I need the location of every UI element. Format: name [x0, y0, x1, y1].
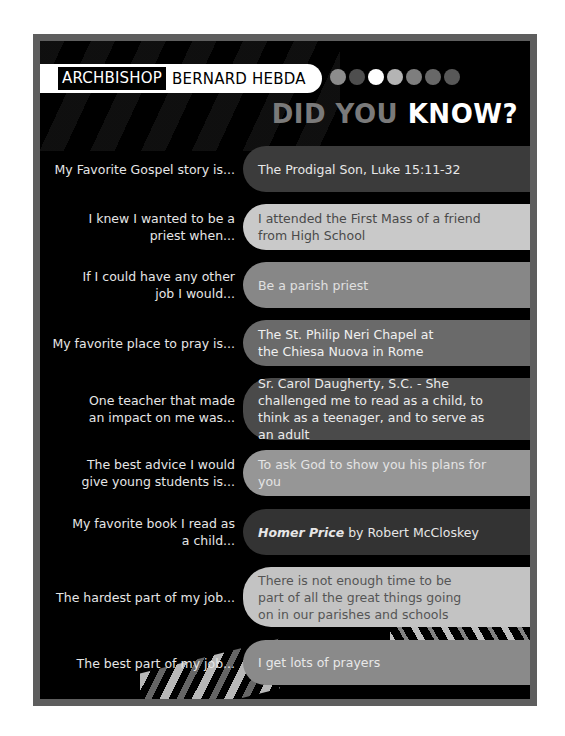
- headline-part2: KNOW?: [408, 99, 518, 129]
- question: The hardest part of my job...: [40, 589, 235, 606]
- dot-icon: [425, 69, 441, 85]
- qa-row: If I could have any other job I would...…: [40, 262, 530, 308]
- answer-pill: To ask God to show you his plans for you: [243, 450, 530, 496]
- question: My favorite place to pray is...: [40, 335, 235, 352]
- title-label: ARCHBISHOP: [58, 67, 166, 90]
- qa-row: My Favorite Gospel story is... The Prodi…: [40, 146, 530, 192]
- dot-icon: [444, 69, 460, 85]
- question: If I could have any other job I would...: [40, 268, 235, 302]
- decorative-dots: [330, 69, 460, 85]
- dot-icon: [368, 69, 384, 85]
- answer-pill: The Prodigal Son, Luke 15:11-32: [243, 146, 530, 192]
- answer: I attended the First Mass of a friend fr…: [258, 210, 488, 244]
- dot-icon: [387, 69, 403, 85]
- qa-row: The best advice I would give young stude…: [40, 450, 530, 496]
- name-banner: ARCHBISHOP BERNARD HEBDA: [40, 64, 322, 93]
- answer: Be a parish priest: [258, 277, 368, 294]
- answer-pill: I get lots of prayers: [243, 640, 530, 685]
- question: My Favorite Gospel story is...: [40, 161, 235, 178]
- book-author: by Robert McCloskey: [344, 525, 479, 540]
- answer: Homer Price by Robert McCloskey: [258, 524, 479, 541]
- qa-row: My favorite place to pray is... The St. …: [40, 320, 530, 366]
- background-texture: [40, 41, 340, 151]
- page-title: DID YOU KNOW?: [272, 99, 518, 129]
- book-title: Homer Price: [258, 525, 344, 540]
- answer-pill: Sr. Carol Daugherty, S.C. - She challeng…: [243, 378, 530, 440]
- question: One teacher that made an impact on me wa…: [40, 392, 235, 426]
- question: I knew I wanted to be a priest when...: [40, 210, 235, 244]
- dot-icon: [349, 69, 365, 85]
- dot-icon: [406, 69, 422, 85]
- poster-panel: ARCHBISHOP BERNARD HEBDA DID YOU KNOW? M…: [40, 41, 530, 699]
- answer: The Prodigal Son, Luke 15:11-32: [258, 161, 461, 178]
- question: My favorite book I read as a child...: [40, 515, 235, 549]
- answer-pill: Be a parish priest: [243, 262, 530, 308]
- answer: To ask God to show you his plans for you: [258, 456, 500, 490]
- answer-pill: There is not enough time to be part of a…: [243, 567, 530, 627]
- qa-row: The best part of my job... I get lots of…: [40, 640, 530, 685]
- headline-part1: DID YOU: [272, 99, 399, 129]
- qa-row: One teacher that made an impact on me wa…: [40, 378, 530, 440]
- answer-pill: The St. Philip Neri Chapel at the Chiesa…: [243, 320, 530, 366]
- qa-row: I knew I wanted to be a priest when... I…: [40, 204, 530, 250]
- question: The best part of my job...: [40, 654, 235, 671]
- question: The best advice I would give young stude…: [40, 456, 235, 490]
- answer: I get lots of prayers: [258, 654, 380, 671]
- answer: Sr. Carol Daugherty, S.C. - She challeng…: [258, 375, 500, 443]
- answer: There is not enough time to be part of a…: [258, 572, 468, 623]
- person-name: BERNARD HEBDA: [172, 70, 306, 88]
- answer: The St. Philip Neri Chapel at the Chiesa…: [258, 326, 453, 360]
- dot-icon: [330, 69, 346, 85]
- answer-pill: I attended the First Mass of a friend fr…: [243, 204, 530, 250]
- qa-row: My favorite book I read as a child... Ho…: [40, 509, 530, 555]
- qa-row: The hardest part of my job... There is n…: [40, 567, 530, 627]
- answer-pill: Homer Price by Robert McCloskey: [243, 509, 530, 555]
